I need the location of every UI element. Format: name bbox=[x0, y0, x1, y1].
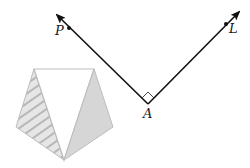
point-P-dot bbox=[67, 26, 71, 30]
geometry-diagram: P L A bbox=[0, 0, 250, 168]
label-P: P bbox=[54, 23, 64, 38]
point-L-dot bbox=[224, 22, 228, 26]
right-angle-marker bbox=[142, 92, 154, 98]
label-L: L bbox=[228, 21, 238, 36]
pentagon-shape bbox=[16, 69, 113, 160]
label-A: A bbox=[142, 106, 152, 121]
